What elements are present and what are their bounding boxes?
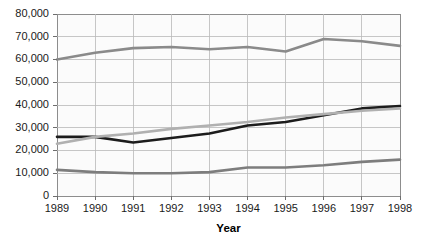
x-tick-label: 1998 [388, 202, 412, 214]
x-axis-title: Year [216, 222, 241, 234]
x-tick-label: 1994 [235, 202, 259, 214]
x-tick-label: 1997 [350, 202, 374, 214]
y-tick-label: 60,000 [15, 52, 49, 64]
chart-container: 010,00020,00030,00040,00050,00060,00070,… [0, 0, 435, 251]
x-tick-label: 1995 [273, 202, 297, 214]
y-tick-label: 0 [43, 189, 49, 201]
y-tick-label: 50,000 [15, 75, 49, 87]
x-tick-label: 1989 [45, 202, 69, 214]
y-tick-label: 30,000 [15, 121, 49, 133]
y-tick-label: 80,000 [15, 7, 49, 19]
y-tick-label: 20,000 [15, 143, 49, 155]
x-axis-tick-labels: 1989199019911992199319941995199619971998 [45, 202, 412, 214]
x-tick-label: 1991 [121, 202, 145, 214]
y-tick-label: 40,000 [15, 98, 49, 110]
y-tick-label: 10,000 [15, 166, 49, 178]
x-tick-label: 1996 [312, 202, 336, 214]
y-axis-tick-labels: 010,00020,00030,00040,00050,00060,00070,… [15, 7, 49, 201]
x-tick-label: 1990 [83, 202, 107, 214]
x-tick-label: 1992 [159, 202, 183, 214]
line-chart: 010,00020,00030,00040,00050,00060,00070,… [0, 0, 435, 251]
y-tick-label: 70,000 [15, 30, 49, 42]
x-tick-label: 1993 [197, 202, 221, 214]
